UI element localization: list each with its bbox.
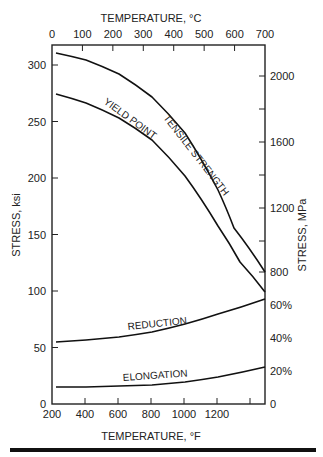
- curve-labels: YIELD POINTTENSILE STRENGTHREDUCTIONELON…: [102, 96, 232, 383]
- curve-tensile-strength: [56, 53, 265, 272]
- label-reduction: REDUCTION: [127, 315, 187, 332]
- left-tick-label: 300: [28, 59, 46, 71]
- top-tick-label: 500: [195, 28, 213, 40]
- left-axis-ticks: 050100150200250300: [28, 59, 58, 410]
- right-tick-label: 1200: [270, 202, 294, 214]
- right-tick-label: 1600: [270, 136, 294, 148]
- left-tick-label: 150: [28, 229, 46, 241]
- left-tick-label: 50: [34, 342, 46, 354]
- bottom-tick-label: 1000: [172, 408, 196, 420]
- right-tick-label: 800: [270, 266, 288, 278]
- right-axis-title: STRESS, MPa: [296, 198, 308, 272]
- left-tick-label: 0: [40, 398, 46, 410]
- right-percent-label: 60%: [270, 299, 292, 311]
- right-percent-label: 20%: [270, 365, 292, 377]
- label-elongation: ELONGATION: [122, 367, 187, 382]
- right-percent-label: 0: [270, 398, 276, 410]
- left-tick-label: 200: [28, 172, 46, 184]
- bottom-tick-label: 400: [76, 408, 94, 420]
- bottom-axis-ticks: 20040060080010001200: [43, 398, 250, 420]
- curves: [56, 53, 265, 387]
- bottom-tick-label: 1200: [205, 408, 229, 420]
- top-tick-label: 0: [49, 28, 55, 40]
- bottom-tick-label: 600: [109, 408, 127, 420]
- divider-rule: [10, 448, 316, 452]
- top-axis-ticks: 0100200300400500600700: [49, 28, 274, 51]
- top-axis-title: TEMPERATURE, °C: [101, 12, 202, 24]
- chart: TEMPERATURE, °C 0100200300400500600700 T…: [0, 0, 323, 457]
- top-tick-label: 100: [73, 28, 91, 40]
- label-tensile-strength: TENSILE STRENGTH: [161, 112, 231, 197]
- label-yield-point: YIELD POINT: [102, 96, 159, 141]
- top-tick-label: 300: [134, 28, 152, 40]
- curve-yield-point: [56, 94, 265, 292]
- left-tick-label: 100: [28, 285, 46, 297]
- bottom-tick-label: 800: [142, 408, 160, 420]
- right-tick-label: 2000: [270, 70, 294, 82]
- top-tick-label: 600: [225, 28, 243, 40]
- top-tick-label: 700: [256, 28, 274, 40]
- left-tick-label: 250: [28, 116, 46, 128]
- right-percent-label: 40%: [270, 332, 292, 344]
- bottom-axis-title: TEMPERATURE, °F: [101, 430, 201, 442]
- top-tick-label: 400: [165, 28, 183, 40]
- top-tick-label: 200: [104, 28, 122, 40]
- left-axis-title: STRESS, ksi: [10, 193, 22, 257]
